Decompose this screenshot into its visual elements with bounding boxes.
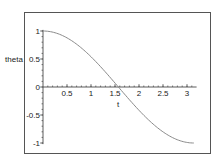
y-tick-label: 0 — [36, 83, 41, 92]
y-axis-label: theta — [5, 55, 23, 64]
x-tick-label: 2 — [137, 89, 142, 98]
y-tick-label: 0.5 — [29, 55, 41, 64]
x-tick-label: 0.5 — [61, 89, 73, 98]
tick-labels: 0.511.522.5310.50-0.5-1 — [26, 27, 190, 148]
y-tick-label: 1 — [36, 27, 41, 36]
x-tick-label: 3 — [185, 89, 190, 98]
y-tick-label: -1 — [33, 139, 41, 148]
x-axis-label: t — [117, 100, 120, 109]
plot-frame — [25, 13, 211, 154]
x-tick-label: 1 — [89, 89, 94, 98]
y-tick-label: -0.5 — [26, 111, 40, 120]
x-tick-label: 1.5 — [109, 89, 121, 98]
line-chart: 0.511.522.5310.50-0.5-1 theta t — [0, 0, 220, 162]
x-tick-label: 2.5 — [157, 89, 169, 98]
